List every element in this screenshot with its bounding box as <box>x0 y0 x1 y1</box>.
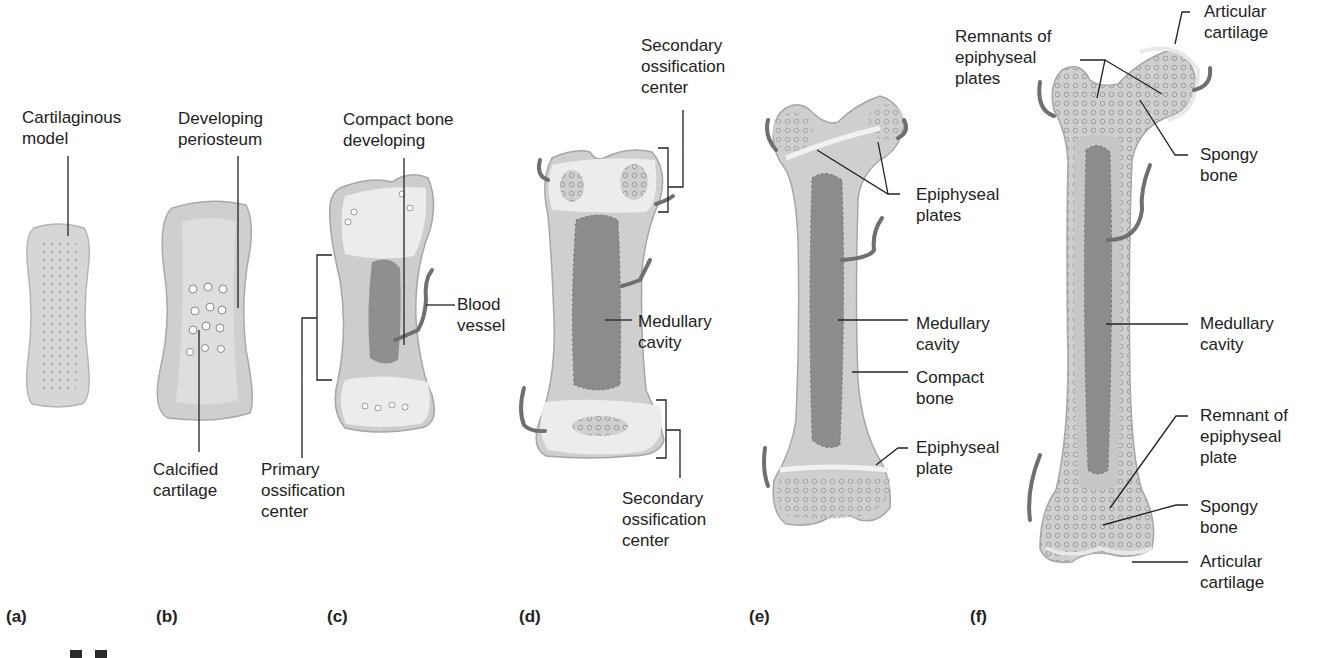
label-remnants-of-epiphyseal-plates: Remnants of epiphyseal plates <box>955 26 1051 89</box>
label-developing-periosteum: Developing periosteum <box>178 108 263 150</box>
panel-label-e: (e) <box>749 607 770 627</box>
label-primary-ossification-center: Primary ossification center <box>261 459 345 522</box>
label-blood-vessel: Blood vessel <box>457 294 505 336</box>
blood-vessel-f4 <box>1029 455 1040 520</box>
panel-label-b: (b) <box>156 607 178 627</box>
label-compact-bone-developing: Compact bone developing <box>343 109 454 151</box>
panel-label-d: (d) <box>519 607 541 627</box>
label-secondary-ossification-center-top: Secondary ossification center <box>641 35 725 98</box>
label-remnant-of-epiphyseal-plate: Remnant of epiphyseal plate <box>1200 405 1288 468</box>
bone-stage-e <box>773 96 904 525</box>
label-compact-bone-e: Compact bone <box>916 367 984 409</box>
panel-label-c: (c) <box>327 607 348 627</box>
panel-label-a: (a) <box>6 607 27 627</box>
label-cartilaginous-model: Cartilaginous model <box>22 107 121 149</box>
cropped-figure-number-fragment <box>70 650 82 658</box>
label-epiphyseal-plates-e: Epiphyseal plates <box>916 184 999 226</box>
label-medullary-cavity-e: Medullary cavity <box>916 313 990 355</box>
label-calcified-cartilage: Calcified cartilage <box>153 459 218 501</box>
panel-label-f: (f) <box>970 607 987 627</box>
label-articular-cartilage-bottom: Articular cartilage <box>1200 551 1264 593</box>
blood-vessel-e4 <box>764 448 768 486</box>
label-articular-cartilage-top: Articular cartilage <box>1204 1 1268 43</box>
bone-stage-f <box>1040 49 1198 563</box>
label-epiphyseal-plate-e: Epiphyseal plate <box>916 437 999 479</box>
label-medullary-cavity-d: Medullary cavity <box>638 311 712 353</box>
label-medullary-cavity-f: Medullary cavity <box>1200 313 1274 355</box>
label-spongy-bone-bottom: Spongy bone <box>1200 496 1258 538</box>
bone-stage-d <box>536 150 664 458</box>
bone-stage-a <box>27 224 90 407</box>
cropped-figure-number-fragment <box>95 650 107 658</box>
bone-stage-c <box>330 175 435 432</box>
label-spongy-bone-top: Spongy bone <box>1200 144 1258 186</box>
label-secondary-ossification-center-bottom: Secondary ossification center <box>622 488 706 551</box>
